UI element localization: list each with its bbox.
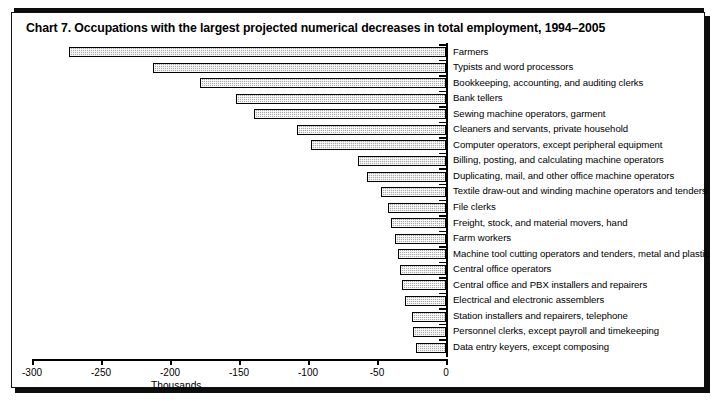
bar (153, 63, 446, 73)
x-axis-tick (32, 359, 34, 365)
chart-title: Chart 7. Occupations with the largest pr… (26, 21, 605, 35)
axis-row-tick (439, 293, 447, 295)
x-axis-title: Thousands (151, 380, 201, 391)
bar (69, 47, 446, 57)
bar (416, 343, 446, 353)
bar (398, 249, 446, 259)
bar-category-label: Cleaners and servants, private household (453, 123, 628, 134)
bar-category-label: Bookkeeping, accounting, and auditing cl… (453, 77, 643, 88)
axis-row-tick (439, 262, 447, 264)
bar-category-label: Farmers (453, 46, 488, 57)
axis-row-tick (439, 91, 447, 93)
axis-row-tick (439, 106, 447, 108)
x-axis-tick-label: -250 (91, 367, 111, 378)
bar-category-label: Central office and PBX installers and re… (453, 279, 647, 290)
axis-row-tick (439, 44, 447, 46)
axis-row-tick (439, 122, 447, 124)
x-axis-tick (101, 359, 103, 365)
axis-row-tick (439, 75, 447, 77)
axis-row-tick (439, 215, 447, 217)
axis-row-tick (439, 60, 447, 62)
axis-row-tick (439, 184, 447, 186)
x-axis-tick-label: -50 (370, 367, 384, 378)
x-axis-tick (377, 359, 379, 365)
x-axis-tick-label: -200 (160, 367, 180, 378)
bar-category-label: Machine tool cutting operators and tende… (453, 248, 709, 259)
bar (413, 327, 446, 337)
axis-row-tick (439, 339, 447, 341)
x-axis-tick (239, 359, 241, 365)
axis-row-tick (439, 231, 447, 233)
x-axis-tick (170, 359, 172, 365)
bar-category-label: Typists and word processors (453, 61, 573, 72)
bar (400, 265, 446, 275)
bar (412, 312, 447, 322)
bar (381, 187, 446, 197)
bar (367, 172, 446, 182)
bar (395, 234, 446, 244)
bar-category-label: Data entry keyers, except composing (453, 341, 609, 352)
x-axis-tick-label: -300 (22, 367, 42, 378)
axis-row-tick (439, 246, 447, 248)
axis-row-tick (439, 153, 447, 155)
bar-category-label: Textile draw-out and winding machine ope… (453, 185, 707, 196)
bar (391, 218, 446, 228)
bar-category-label: Duplicating, mail, and other office mach… (453, 170, 674, 181)
bar (402, 280, 446, 290)
bar (236, 94, 446, 104)
bar-category-label: Electrical and electronic assemblers (453, 294, 604, 305)
bar-category-label: Bank tellers (453, 92, 503, 103)
x-axis-tick-label: 0 (443, 367, 449, 378)
x-axis-tick-label: -100 (298, 367, 318, 378)
bar-category-label: Personnel clerks, except payroll and tim… (453, 325, 659, 336)
bar-category-label: Computer operators, except peripheral eq… (453, 139, 662, 150)
axis-row-tick (439, 168, 447, 170)
axis-row-tick (439, 324, 447, 326)
bar (388, 203, 446, 213)
bar (311, 140, 446, 150)
bar-row: Data entry keyers, except composing (12, 339, 706, 356)
bar (297, 125, 446, 135)
axis-row-tick (439, 308, 447, 310)
chart-frame: Chart 7. Occupations with the largest pr… (11, 12, 705, 388)
bar-category-label: Billing, posting, and calculating machin… (453, 154, 664, 165)
bar (405, 296, 446, 306)
axis-row-tick (439, 277, 447, 279)
bar-category-label: Station installers and repairers, teleph… (453, 310, 628, 321)
bar-category-label: File clerks (453, 201, 496, 212)
bar (200, 78, 446, 88)
axis-row-tick (439, 200, 447, 202)
bar-category-label: Freight, stock, and material movers, han… (453, 217, 627, 228)
plot-area: FarmersTypists and word processorsBookke… (12, 43, 706, 359)
x-axis-tick-label: -150 (229, 367, 249, 378)
x-axis-tick (308, 359, 310, 365)
bar-category-label: Farm workers (453, 232, 511, 243)
bar (254, 109, 446, 119)
bar (358, 156, 446, 166)
axis-row-tick (439, 137, 447, 139)
bar-category-label: Central office operators (453, 263, 551, 274)
bar-category-label: Sewing machine operators, garment (453, 108, 605, 119)
frame-shadow-bottom (15, 388, 709, 393)
x-axis-tick (446, 359, 448, 365)
